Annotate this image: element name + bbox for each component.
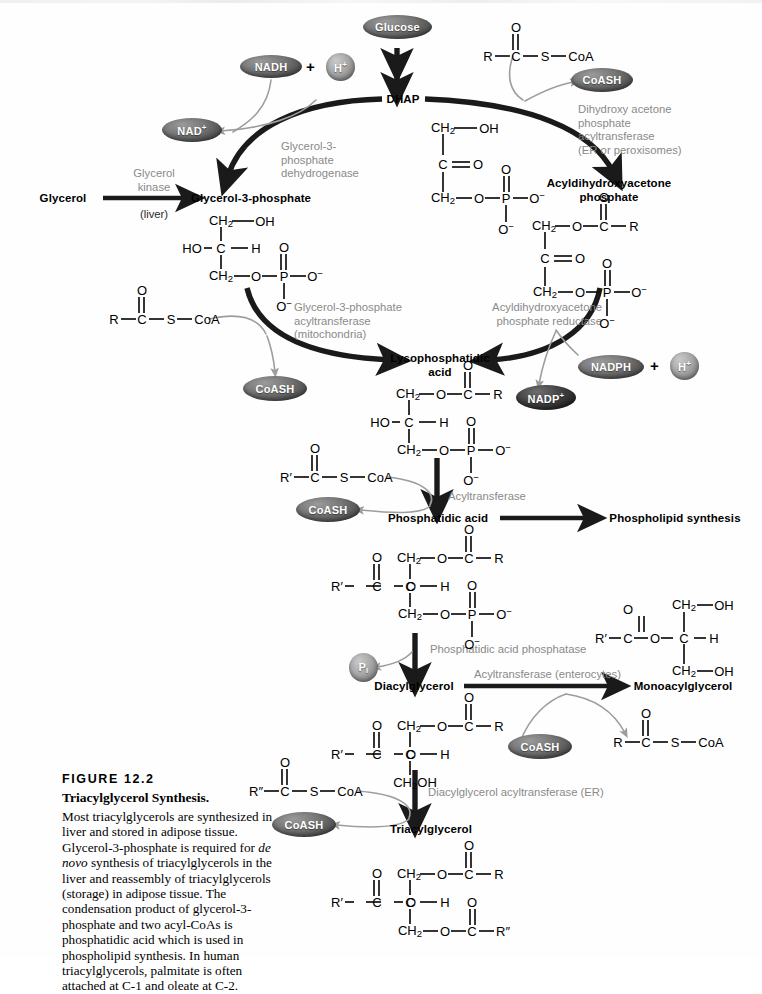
atom-adhap-p-o-double: O [602, 256, 612, 271]
atom-pa-ch2-top: CH2 [397, 550, 421, 566]
atom-acylcoa-lower-s: S [340, 470, 349, 485]
arrow-nad-out [221, 100, 316, 131]
atom-dhap-ch2-top: CH2 [431, 120, 455, 136]
atom-pa-carbonyl-o-left: O [372, 550, 382, 565]
atom-g3p-p-o-double: O [279, 240, 289, 255]
atom-adhap-o-minus-right: O− [631, 284, 647, 300]
atom-mag-ch2-top: CH2 [672, 597, 696, 613]
coash-label-mid: CoASH [256, 383, 295, 395]
atom-acylcoa-top-c: C [511, 49, 520, 64]
atom-pa-h: H [440, 579, 449, 594]
arrow-nadph-in [556, 330, 578, 355]
atom-tag-carbonyl-c-top: C [464, 867, 473, 882]
atom-pa-p: P [468, 607, 477, 622]
atom-pa-ester-o-top: O [437, 551, 447, 566]
atom-tag-carbonyl-c-bottom: C [467, 924, 476, 939]
atom-mag-r-prime: R′ [595, 631, 607, 646]
label-glycerol-3-phosphate: Glycerol-3-phosphate [191, 192, 311, 204]
atom-tag-c-center: C [405, 895, 414, 910]
atom-acylcoa-bottom-s: S [310, 784, 319, 799]
atom-tag-carbonyl-c-left: C [372, 895, 381, 910]
atom-acylcoa-mid-coa: CoA [194, 312, 219, 327]
atom-pa-carbonyl-c-left: C [372, 579, 381, 594]
atom-tag-ch2-bottom: CH2 [398, 923, 422, 939]
enzyme-pa-phosphatase: Phosphatidic acid phosphatase [430, 643, 586, 657]
structure-g3p-bonds [204, 221, 306, 299]
atom-dhap-p: P [502, 191, 511, 206]
bubble-nadph: NADPH [578, 355, 644, 379]
atom-dhap-ch2-bottom: CH2 [431, 190, 455, 206]
atom-tag-ester-o-top: O [437, 867, 447, 882]
structure-acylcoa-mid-bonds [121, 297, 192, 319]
atom-g3p-oh: OH [255, 214, 275, 229]
coash-label-bottom: CoASH [285, 819, 324, 831]
arrow-acylcoa-bottom-in [357, 791, 410, 818]
label-dhap: DHAP [387, 93, 420, 105]
arrow-enterocyte-acylcoa-out [566, 694, 625, 733]
atom-adhap-phospho-o: O [575, 285, 585, 300]
atom-tag-carbonyl-o-left: O [372, 866, 382, 881]
atom-adhap-o-minus-bottom: O− [599, 315, 615, 331]
atom-dhap-oh: OH [479, 121, 499, 136]
pi-label: Pi [359, 661, 369, 675]
atom-acylcoa-bottom-coa: CoA [337, 784, 362, 799]
figure-body: Most triacylglycerols are synthesized in… [62, 809, 274, 994]
atom-adhap-ch2-bottom: CH2 [533, 284, 557, 300]
atom-dag-c-center: C [405, 747, 414, 762]
atom-dag-carbonyl-c-left: C [372, 747, 381, 762]
figure-caption: FIGURE 12.2 Triacylglycerol Synthesis. M… [62, 772, 274, 994]
atom-dag-r-top: R [494, 719, 503, 734]
atom-lpa-r: R [493, 387, 502, 402]
atom-acylcoa-mid-s: S [167, 312, 176, 327]
bubble-coash-top: CoASH [571, 68, 633, 92]
atom-acylcoa-top-r: R [483, 49, 492, 64]
atom-acylcoa-br-r: R [613, 735, 622, 750]
atom-tag-carbonyl-o-bottom: O [467, 895, 477, 910]
atom-acylcoa-mid-r: R [109, 312, 118, 327]
atom-g3p-h: H [251, 241, 260, 256]
arrow-coash-mid-out [267, 336, 275, 372]
atom-acylcoa-br-c: C [641, 735, 650, 750]
glucose-label: Glucose [375, 21, 420, 33]
label-phospholipid-synthesis: Phospholipid synthesis [609, 512, 740, 524]
nadph-label: NADPH [591, 361, 631, 373]
label-lysophosphatidic-acid: Lysophosphatidic acid [390, 352, 490, 379]
enzyme-glycerol-kinase: Glycerol kinase [117, 167, 191, 194]
atom-lpa-ho: HO [370, 415, 390, 430]
atom-acylcoa-br-s: S [671, 735, 680, 750]
atom-mag-oh-top: OH [714, 598, 734, 613]
atom-dhap-carbonyl-o: O [473, 157, 483, 172]
atom-tag-r-prime: R′ [331, 895, 343, 910]
structure-acylcoa-bottomright-bonds [625, 720, 696, 742]
atom-pa-r-prime: R′ [331, 579, 343, 594]
plus-sign-nadh: + [306, 58, 315, 75]
bubble-h-plus-mid: H+ [670, 352, 699, 380]
atom-acylcoa-bottom-o: O [280, 755, 290, 770]
enzyme-g3p-dehydrogenase: Glycerol-3- phosphate dehydrogenase [281, 140, 359, 181]
enzyme-dhap-acyltransferase: Dihydroxy acetone phosphate acyltransfer… [578, 103, 682, 157]
atom-pa-carbonyl-c-top: C [464, 551, 473, 566]
atom-pa-r-top: R [494, 551, 503, 566]
atom-mag-carbonyl-c: C [623, 631, 632, 646]
atom-acylcoa-lower-c: C [310, 470, 319, 485]
arrow-acylcoa-lower-in [387, 477, 432, 505]
enzyme-acyltransferase-enterocytes: Acyltransferase (enterocytes) [474, 668, 621, 682]
label-triacylglycerol: Triacylglycerol [390, 823, 472, 835]
atom-pa-phospho-o: O [440, 607, 450, 622]
atom-pa-ch2-bottom: CH2 [398, 606, 422, 622]
h-plus-label-mid: H+ [678, 359, 691, 373]
atom-dag-ester-o-top: O [437, 719, 447, 734]
bubble-coash-bottom: CoASH [272, 812, 336, 837]
atom-lpa-o-minus-right: O− [495, 442, 511, 458]
scan-artifact-strip [0, 0, 762, 3]
atom-adhap-carbonyl-c: C [599, 219, 608, 234]
atom-acylcoa-br-o: O [641, 706, 651, 721]
arrow-pi-out [377, 652, 412, 667]
atom-adhap-c: C [540, 251, 549, 266]
atom-dag-carbonyl-c-top: C [464, 719, 473, 734]
figure-title: Triacylglycerol Synthesis. [62, 790, 274, 806]
atom-adhap-r: R [629, 219, 638, 234]
nadp-plus-label: NADP+ [528, 391, 565, 405]
bubble-nad-plus: NAD+ [162, 118, 222, 142]
enzyme-dag-acyltransferase: Diacylglycerol acyltransferase (ER) [428, 786, 604, 800]
